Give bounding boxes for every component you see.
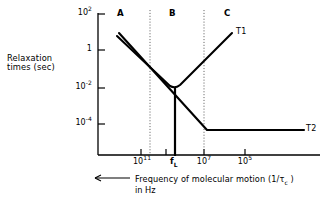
curve-t2	[119, 33, 304, 130]
relaxation-times-figure: Relaxationtimes (sec) 102 1 10-2 10-4 10…	[0, 0, 327, 199]
plot-canvas	[0, 0, 327, 199]
curve-t1	[117, 33, 232, 87]
